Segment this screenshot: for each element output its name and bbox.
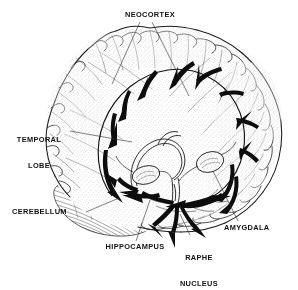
label-raphe-nucleus-line1: RAPHE xyxy=(176,254,222,263)
label-temporal-lobe-line1: TEMPORAL xyxy=(8,136,70,145)
label-amygdala: AMYGDALA xyxy=(224,224,284,233)
label-neocortex: NEOCORTEX xyxy=(110,11,190,20)
label-hippocampus: HIPPOCAMPUS xyxy=(99,243,171,252)
label-temporal-lobe-line2: LOBE xyxy=(8,162,70,171)
label-raphe-nucleus-line2: NUCLEUS xyxy=(176,280,222,289)
label-temporal-lobe: TEMPORAL LOBE xyxy=(8,119,70,179)
label-raphe-nucleus: RAPHE NUCLEUS xyxy=(176,237,222,290)
label-cerebellum: CEREBELLUM xyxy=(12,208,86,217)
